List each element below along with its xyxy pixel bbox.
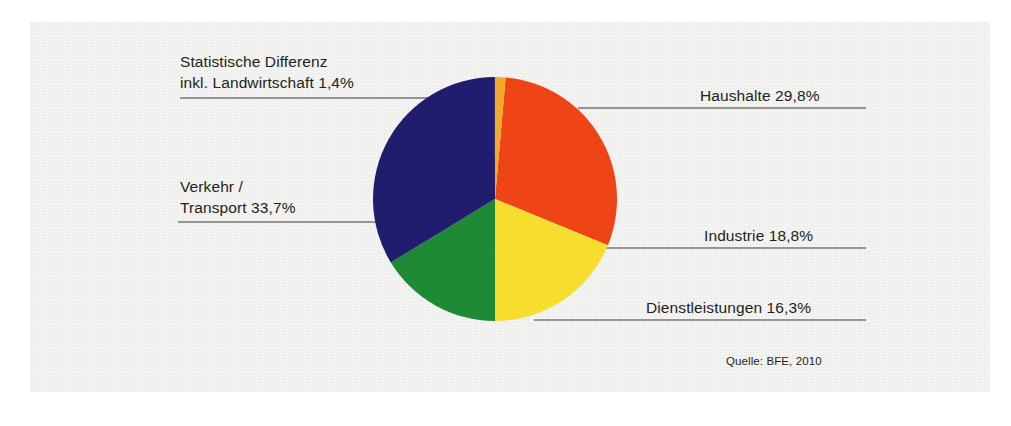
- source-note: Quelle: BFE, 2010: [726, 355, 822, 367]
- pie-label-verkehr-transport: Verkehr / Transport 33,7%: [180, 176, 296, 218]
- pie-label-statistische-differenz-line2: inkl. Landwirtschaft 1,4%: [180, 72, 354, 93]
- pie-label-statistische-differenz-line1: Statistische Differenz: [180, 51, 354, 72]
- pie-label-industrie: Industrie 18,8%: [704, 225, 813, 246]
- pie-label-verkehr-transport-line2: Transport 33,7%: [180, 197, 296, 218]
- pie-label-haushalte: Haushalte 29,8%: [700, 85, 820, 106]
- pie-label-verkehr-transport-line1: Verkehr /: [180, 176, 296, 197]
- figure-canvas: Statistische Differenz inkl. Landwirtsch…: [0, 0, 1011, 426]
- pie-label-statistische-differenz: Statistische Differenz inkl. Landwirtsch…: [180, 51, 354, 93]
- pie-label-dienstleistungen: Dienstleistungen 16,3%: [646, 297, 811, 318]
- pie-chart-graphic: [0, 0, 1011, 426]
